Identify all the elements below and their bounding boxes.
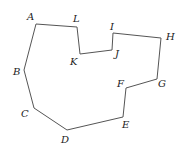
vertex-label-f: F (116, 78, 125, 89)
polygon-outline (24, 24, 161, 130)
vertex-label-i: I (109, 21, 115, 32)
vertex-labels: ALKJIHGFEDCB (12, 11, 175, 145)
vertex-label-e: E (121, 119, 130, 130)
polygon-diagram: ALKJIHGFEDCB (0, 0, 185, 153)
vertex-label-c: C (21, 108, 29, 119)
vertex-label-g: G (158, 78, 166, 89)
vertex-label-d: D (60, 134, 69, 145)
vertex-label-k: K (69, 56, 78, 67)
vertex-label-l: L (72, 13, 80, 24)
vertex-label-h: H (165, 31, 175, 42)
vertex-label-a: A (26, 11, 34, 22)
vertex-label-j: J (113, 48, 120, 59)
vertex-label-b: B (12, 66, 20, 77)
